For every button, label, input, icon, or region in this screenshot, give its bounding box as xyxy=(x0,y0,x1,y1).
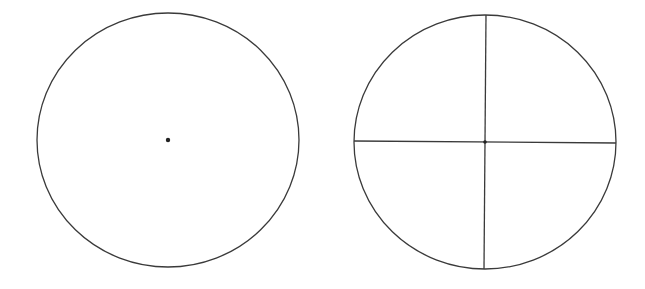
center-point xyxy=(483,140,487,144)
figure-left-circle xyxy=(37,13,299,267)
figure-right-circle xyxy=(354,15,616,269)
center-point xyxy=(166,138,170,142)
diagram-canvas xyxy=(0,0,645,289)
